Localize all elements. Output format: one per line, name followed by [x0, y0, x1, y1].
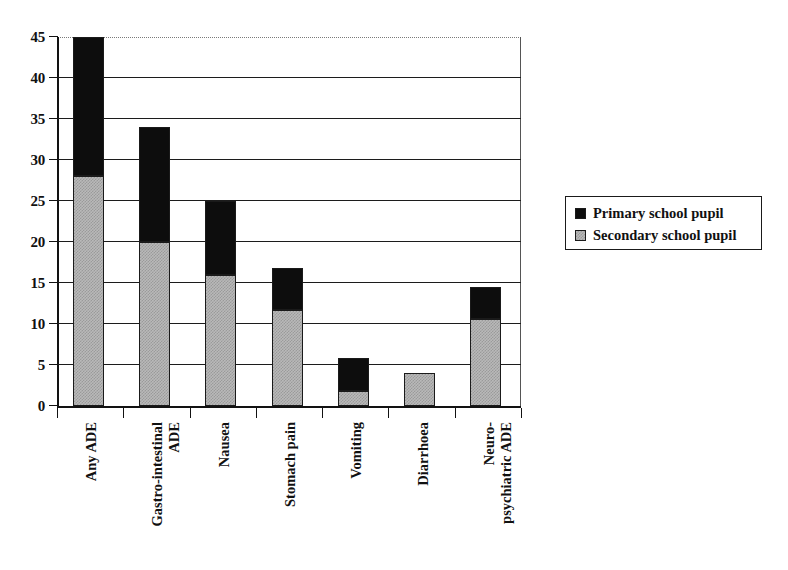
y-tick-label: 35 — [3, 112, 45, 127]
plot-top-border — [57, 37, 521, 39]
y-tick-mark-40 — [49, 77, 58, 78]
y-tick-label: 30 — [3, 153, 45, 168]
bar-segment-secondary — [272, 310, 303, 406]
chart-legend: Primary school pupilSecondary school pup… — [565, 196, 762, 250]
x-axis-label: psychiatric ADE — [499, 422, 514, 524]
y-tick-label: 15 — [3, 276, 45, 291]
y-tick-mark-15 — [49, 282, 58, 283]
y-tick-mark-35 — [49, 118, 58, 119]
plot-bottom-axis — [57, 406, 521, 408]
y-tick-mark-5 — [49, 364, 58, 365]
gridline-20 — [57, 241, 521, 242]
plot-area — [57, 37, 521, 408]
y-tick-mark-45 — [49, 36, 58, 37]
bar-segment-secondary — [470, 319, 501, 406]
plot-right-border — [520, 37, 522, 408]
y-tick-label: 45 — [3, 30, 45, 45]
bar-segment-primary — [139, 127, 170, 242]
bar-stack — [272, 268, 303, 406]
x-axis-label: Any ADE — [84, 422, 99, 481]
x-axis-label: Neuro- — [482, 422, 497, 465]
x-tick-mark — [521, 408, 522, 418]
gridline-25 — [57, 200, 521, 201]
x-tick-mark — [322, 408, 323, 418]
y-tick-mark-20 — [49, 241, 58, 242]
x-axis-label: Gastro-intestinal — [150, 422, 165, 526]
bar-stack — [139, 127, 170, 406]
x-axis-label: Nausea — [217, 422, 232, 467]
y-tick-mark-0 — [49, 405, 58, 406]
bar-segment-primary — [338, 358, 369, 391]
x-tick-mark — [190, 408, 191, 418]
legend-swatch-secondary-icon — [575, 230, 586, 241]
legend-label: Primary school pupil — [593, 206, 724, 221]
bar-segment-secondary — [139, 242, 170, 406]
gridline-35 — [57, 118, 521, 119]
bar-segment-secondary — [205, 275, 236, 406]
y-tick-label: 5 — [3, 358, 45, 373]
bar-segment-secondary — [338, 391, 369, 406]
gridline-40 — [57, 77, 521, 78]
gridline-30 — [57, 159, 521, 160]
bar-segment-primary — [470, 287, 501, 319]
x-tick-mark — [123, 408, 124, 418]
x-axis-label: Stomach pain — [283, 422, 298, 507]
y-tick-label: 0 — [3, 399, 45, 414]
bar-stack — [338, 358, 369, 406]
bar-segment-primary — [73, 37, 104, 176]
y-tick-label: 25 — [3, 194, 45, 209]
y-tick-label: 40 — [3, 71, 45, 86]
legend-item: Primary school pupil — [575, 206, 724, 221]
x-axis-label: ADE — [167, 422, 182, 453]
x-tick-mark — [57, 408, 58, 418]
x-tick-mark — [388, 408, 389, 418]
y-tick-label: 20 — [3, 235, 45, 250]
x-axis-label: Vomiting — [349, 422, 364, 479]
bar-segment-secondary — [404, 373, 435, 406]
y-tick-mark-30 — [49, 159, 58, 160]
bar-segment-secondary — [73, 176, 104, 406]
y-tick-mark-10 — [49, 323, 58, 324]
x-tick-mark — [455, 408, 456, 418]
bar-stack — [205, 201, 236, 406]
bar-segment-primary — [272, 268, 303, 310]
y-tick-label: 10 — [3, 317, 45, 332]
bar-stack — [470, 287, 501, 406]
bar-stack — [73, 37, 104, 406]
legend-label: Secondary school pupil — [593, 228, 736, 243]
chart-figure: 051015202530354045 Any ADEGastro-intesti… — [0, 0, 788, 570]
bar-segment-primary — [205, 201, 236, 275]
legend-swatch-primary-icon — [575, 208, 586, 219]
x-axis-label: Diarrhoea — [416, 422, 431, 486]
bar-stack — [404, 373, 435, 406]
legend-item: Secondary school pupil — [575, 228, 736, 243]
x-tick-mark — [256, 408, 257, 418]
y-tick-mark-25 — [49, 200, 58, 201]
plot-left-axis — [57, 37, 59, 408]
